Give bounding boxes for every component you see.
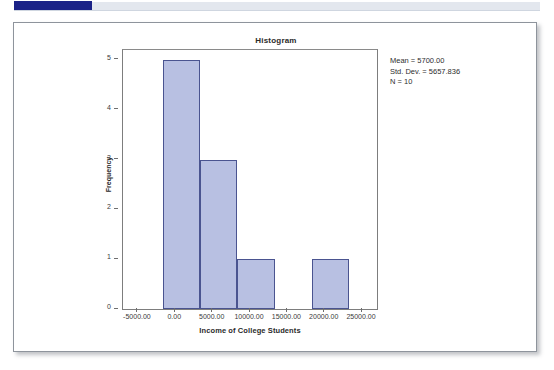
x-tick-mark [249,308,250,312]
y-tick-mark [114,158,118,159]
x-tick-mark [361,308,362,312]
y-tick-label: 2 [107,203,111,210]
x-tick-mark [211,308,212,312]
histogram-bar [200,160,237,309]
histogram-bar [237,259,274,309]
y-tick-mark [114,308,118,309]
y-tick-label: 1 [107,253,111,260]
x-tick-label: 0.00 [167,313,181,320]
stat-std-dev: Std. Dev. = 5657.836 [390,67,460,78]
top-decorative-banner [0,0,554,16]
x-tick-label: 5000.00 [199,313,224,320]
statistics-annotation: Mean = 5700.00 Std. Dev. = 5657.836 N = … [390,56,460,88]
y-tick-label: 3 [107,154,111,161]
chart-title: Histogram [14,36,538,45]
stat-n: N = 10 [390,77,460,88]
x-tick-label: 20000.00 [309,313,338,320]
banner-gray-bar [14,2,540,11]
y-tick-mark [114,208,118,209]
x-tick-label: -5000.00 [123,313,151,320]
x-tick-label: 15000.00 [272,313,301,320]
y-tick-mark [114,58,118,59]
stat-mean: Mean = 5700.00 [390,56,460,67]
chart-card: Histogram Frequency 012345-5000.000.0050… [13,22,537,352]
x-tick-label: 25000.00 [346,313,375,320]
x-tick-mark [286,308,287,312]
y-tick-mark [114,258,118,259]
y-tick-mark [114,108,118,109]
plot-area [123,50,377,309]
x-tick-mark [174,308,175,312]
x-tick-label: 10000.00 [234,313,263,320]
histogram-bar [163,60,200,309]
y-tick-label: 0 [107,303,111,310]
histogram-bar [312,259,349,309]
x-tick-mark [136,308,137,312]
x-tick-mark [323,308,324,312]
y-tick-label: 5 [107,54,111,61]
plot-frame [122,49,378,310]
banner-blue-block [14,1,92,10]
y-tick-label: 4 [107,104,111,111]
x-axis-title: Income of College Students [122,326,378,335]
